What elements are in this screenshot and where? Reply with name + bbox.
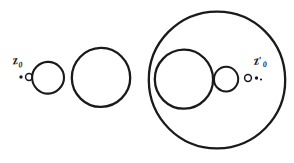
circles-diagram-svg bbox=[0, 0, 294, 163]
right-marker-ring bbox=[245, 75, 252, 82]
right-group bbox=[149, 12, 285, 149]
right-inner-small-circle bbox=[214, 67, 238, 92]
right-marker-dot bbox=[255, 76, 258, 79]
left-small-circle bbox=[32, 62, 64, 94]
label-z-sub-zero: z0 bbox=[12, 53, 23, 71]
left-medium-circle bbox=[72, 48, 130, 107]
right-inner-medium-circle bbox=[155, 50, 213, 109]
right-marker-dot-secondary bbox=[260, 78, 262, 80]
left-marker-dot bbox=[19, 75, 22, 78]
diagram-canvas: z0 z′0 bbox=[0, 0, 294, 163]
label-z-prime-sub-zero: z′0 bbox=[253, 52, 268, 70]
left-group bbox=[19, 48, 130, 107]
right-large-circle bbox=[149, 12, 285, 149]
